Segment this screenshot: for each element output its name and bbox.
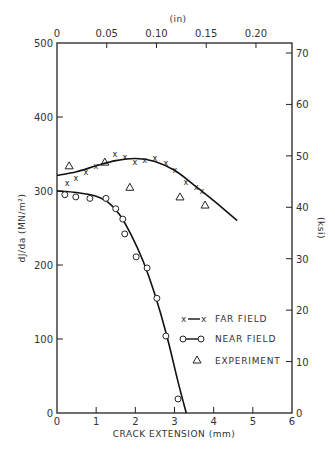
axis-ticks: 0123456010020030040050000.050.100.150.20… [34,28,309,427]
near-field-marker [73,194,79,200]
experiment-marker [176,193,184,200]
right-tick-label: 0 [296,408,302,419]
right-axis-title: (ksi) [316,217,326,239]
far-field-marker: x [84,168,89,177]
top-tick-label: 0.10 [145,28,167,39]
legend-item-experiment: EXPERIMENT [193,356,281,366]
far-field-marker: x [73,174,78,183]
legend-label-experiment: EXPERIMENT [215,356,281,366]
y-tick-label: 0 [47,408,53,419]
near-field-marker [62,192,68,198]
x-tick-label: 3 [171,416,177,427]
far-field-marker: x [173,166,178,175]
right-tick-label: 60 [296,99,309,110]
near-field-curve [57,191,186,413]
x-tick-label: 1 [93,416,99,427]
near-field-marker [113,206,119,212]
far-field-marker: x [122,153,127,162]
experiment-marker [65,162,73,169]
far-field-marker: x [93,162,98,171]
y-tick-label: 300 [34,186,53,197]
near-field-marker [103,195,109,201]
far-field-marker: x [142,156,147,165]
near-field-marker [163,333,169,339]
y-tick-label: 200 [34,260,53,271]
far-field-marker: x [200,187,205,196]
experiment-marker [201,201,209,208]
top-axis-title: (in) [169,14,186,24]
far-field-marker: x [65,179,70,188]
right-tick-label: 20 [296,305,309,316]
x-axis-title: CRACK EXTENSION (mm) [113,429,235,439]
curves [57,158,237,413]
far-field-marker: x [133,158,138,167]
top-tick-label: 0 [54,28,60,39]
near-field-marker [144,265,150,271]
legend-label-far-field: FAR FIELD [215,314,267,324]
far-field-marker: x [194,183,199,192]
y-tick-label: 500 [34,38,53,49]
near-field-marker [154,295,160,301]
y-tick-label: 400 [34,112,53,123]
x-tick-label: 0 [54,416,60,427]
x-tick-label: 4 [210,416,216,427]
experiment-marker [126,183,134,190]
near-field-marker [122,231,128,237]
legend-item-near-field: NEAR FIELD [180,334,276,344]
top-tick-label: 0.05 [96,28,118,39]
near-field-marker [175,396,181,402]
far-field-marker: x [153,154,158,163]
y-axis-title: dJ/da (MN/m²) [17,194,27,263]
chart: 0123456010020030040050000.050.100.150.20… [0,0,335,452]
far-field-marker: x [183,178,188,187]
y-tick-label: 100 [34,334,53,345]
near-field-marker [133,254,139,260]
legend-label-near-field: NEAR FIELD [215,334,276,344]
top-tick-label: 0.15 [195,28,217,39]
legend-item-far-field: x x FAR FIELD [181,314,267,324]
x-tick-label: 6 [289,416,295,427]
right-tick-label: 70 [296,48,309,59]
right-tick-label: 40 [296,202,309,213]
svg-text:x: x [201,314,207,324]
far-field-marker: x [113,150,118,159]
near-field-marker [87,195,93,201]
right-tick-label: 30 [296,254,309,265]
far-field-marker: x [164,159,169,168]
top-tick-label: 0.20 [245,28,267,39]
right-tick-label: 10 [296,357,309,368]
legend: x x FAR FIELD NEAR FIELD EXPERIMENT [180,314,281,366]
right-tick-label: 50 [296,151,309,162]
x-tick-label: 5 [250,416,256,427]
svg-text:x: x [181,314,187,324]
data-markers: xxxxxxxxxxxxxx [62,150,209,402]
near-field-marker [120,216,126,222]
x-tick-label: 2 [132,416,138,427]
